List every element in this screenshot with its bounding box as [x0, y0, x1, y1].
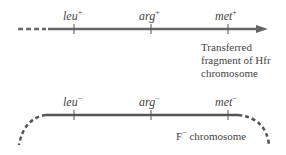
f-minus-caption: F− chromosome	[176, 126, 246, 143]
caption-line: Transferred	[201, 41, 271, 54]
gene-label-arg-minus: arg−	[139, 94, 160, 110]
hfr-caption: Transferred fragment of Hfr chromosome	[201, 41, 271, 80]
gene-label-met-plus: met+	[215, 8, 237, 24]
arrowhead-icon	[256, 25, 268, 33]
gene-label-leu-plus: leu+	[63, 8, 82, 24]
gene-label-leu-minus: leu−	[63, 94, 82, 110]
caption-line: fragment of Hfr	[201, 54, 271, 67]
gene-label-met-minus: met−	[215, 94, 237, 110]
gene-label-arg-plus: arg+	[139, 8, 160, 24]
f-minus-left-curve	[19, 115, 46, 145]
caption-line: chromosome	[201, 67, 271, 80]
